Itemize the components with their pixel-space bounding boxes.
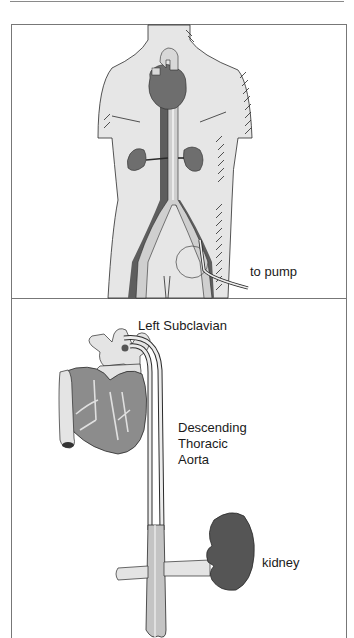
label-descending: Descending [178, 420, 247, 436]
kidney-closeup [207, 513, 255, 590]
heart-closeup [59, 367, 147, 454]
descending-aorta [116, 525, 210, 638]
label-kidney: kidney [262, 555, 300, 571]
label-aorta: Aorta [178, 452, 209, 468]
label-thoracic: Thoracic [178, 436, 228, 452]
label-to-pump: to pump [250, 264, 297, 280]
label-left-subclavian: Left Subclavian [138, 318, 227, 334]
